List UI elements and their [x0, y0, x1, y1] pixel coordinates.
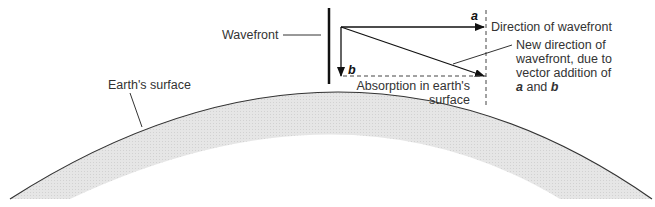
vector-a-label: a — [471, 9, 478, 23]
new-direction-label: New direction of wavefront, due to vecto… — [516, 38, 612, 94]
new-direction-b: b — [551, 80, 559, 94]
wavefront-label: Wavefront — [222, 28, 279, 42]
direction-label: Direction of wavefront — [491, 20, 612, 34]
new-direction-line-2: wavefront, due to — [516, 52, 612, 66]
new-direction-and: and — [523, 80, 551, 94]
vector-b-label: b — [348, 63, 356, 77]
diagram-canvas: Wavefront Earth's surface a b Direction … — [0, 0, 655, 207]
new-direction-line-1: New direction of — [516, 38, 612, 52]
new-direction-a: a — [516, 80, 523, 94]
new-direction-line-4: a and b — [516, 80, 612, 94]
absorption-label: Absorption in earth's surface — [352, 79, 470, 107]
earth-surface-label: Earth's surface — [108, 78, 191, 92]
absorption-line-2: surface — [352, 93, 470, 107]
absorption-line-1: Absorption in earth's — [352, 79, 470, 93]
earth-surface-leader — [130, 93, 142, 127]
resultant-arrow — [341, 27, 484, 76]
new-direction-leader — [453, 45, 512, 64]
new-direction-line-3: vector addition of — [516, 66, 612, 80]
